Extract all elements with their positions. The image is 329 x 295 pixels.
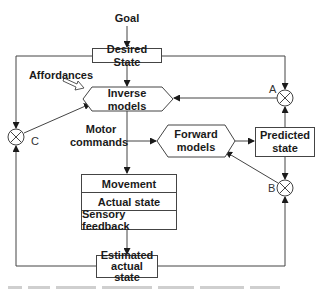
affordances-label: Affordances [28, 69, 94, 82]
comparator-a-icon [277, 90, 293, 106]
edge-desired-c [16, 56, 92, 128]
motor-commands-label: Motor commands [70, 123, 126, 149]
goal-label: Goal [107, 12, 147, 25]
comparator-c-label: C [31, 135, 39, 147]
comparator-c-icon [8, 129, 24, 145]
predicted-state-line1: Predicted [260, 129, 310, 142]
predicted-state-box: Predicted state [255, 127, 315, 157]
edge-desired-a [162, 56, 285, 89]
inverse-models-line2: models [97, 100, 157, 113]
comparator-a-label: A [269, 83, 276, 95]
sensory-feedback-row: Sensory feedback [82, 211, 176, 229]
motor-commands-line2: commands [70, 136, 126, 149]
desired-state-box: Desired State [92, 48, 162, 63]
movement-stack: Movement Actual state Sensory feedback [81, 174, 177, 230]
estimated-line2: actual state [97, 261, 157, 283]
inverse-models-line1: Inverse [97, 87, 157, 100]
edge-estimated-b [158, 197, 285, 266]
comparator-b-label: B [268, 182, 275, 194]
motor-commands-line1: Motor [70, 123, 126, 136]
comparator-b-icon [277, 180, 293, 196]
movement-row: Movement [82, 175, 176, 193]
figure-caption-cutoff [8, 286, 328, 292]
forward-models-line1: Forward [166, 128, 226, 141]
estimated-actual-state-box: Estimated actual state [96, 255, 158, 278]
forward-models-label: Forward models [166, 128, 226, 154]
inverse-models-label: Inverse models [97, 87, 157, 113]
predicted-state-line2: state [272, 142, 298, 155]
forward-models-line2: models [166, 141, 226, 154]
